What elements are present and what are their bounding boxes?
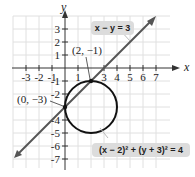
circle-equation-label: (x − 2)² + (y + 3)² = 4	[99, 145, 183, 155]
svg-text:-7: -7	[51, 153, 61, 165]
svg-text:-1: -1	[51, 75, 60, 87]
point-label-2-neg1: (2, −1)	[72, 44, 102, 57]
x-axis-label: x	[183, 60, 190, 74]
point-label-0-neg3: (0, −3)	[17, 93, 47, 106]
y-axis-label: y	[60, 0, 67, 14]
svg-text:3: 3	[101, 71, 107, 83]
svg-text:4: 4	[114, 71, 120, 83]
svg-text:6: 6	[140, 71, 146, 83]
svg-text:1: 1	[75, 71, 81, 83]
line-equation-label: x − y = 3	[95, 23, 131, 33]
x-arrow-icon	[172, 65, 180, 71]
svg-text:2: 2	[55, 36, 61, 48]
svg-text:5: 5	[127, 71, 133, 83]
intersection-point-0-neg3	[63, 105, 67, 109]
svg-text:-3: -3	[21, 71, 31, 83]
line-curve	[14, 16, 156, 158]
intersection-point-2-neg1	[89, 79, 93, 83]
svg-text:-2: -2	[34, 71, 43, 83]
svg-text:-2: -2	[51, 88, 60, 100]
svg-text:-6: -6	[51, 140, 61, 152]
svg-text:-5: -5	[51, 127, 61, 139]
svg-text:3: 3	[55, 23, 61, 35]
graph: -3 -2 -1 1 3 4 5 6 7 3 2 1 -1 -2 -4 -5 -…	[0, 0, 195, 177]
svg-text:1: 1	[55, 49, 61, 61]
svg-text:7: 7	[153, 71, 159, 83]
